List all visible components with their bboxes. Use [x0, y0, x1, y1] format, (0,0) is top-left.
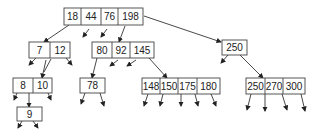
edge-arrow	[211, 94, 216, 106]
edge-arrow	[221, 55, 228, 63]
edge-arrow	[301, 94, 305, 111]
node-key: 148	[143, 81, 160, 92]
tree-node-root: 184476198	[64, 8, 143, 25]
edge-arrow	[195, 94, 198, 106]
edge-arrow	[100, 93, 104, 106]
node-key: 270	[266, 81, 283, 92]
edge-arrow	[18, 121, 22, 128]
edge-arrow	[119, 26, 125, 42]
node-key: 8	[20, 80, 26, 91]
node-key: 18	[67, 11, 79, 22]
edge-arrow	[127, 60, 136, 66]
node-key: 175	[179, 81, 196, 92]
node-key: 12	[54, 45, 66, 56]
edge-arrow	[282, 94, 287, 110]
b-tree-diagram: 1844761987128092145250810978148150175180…	[0, 0, 318, 140]
edge-arrow	[149, 58, 167, 78]
edge-arrow	[33, 121, 38, 128]
edge-arrow	[83, 29, 89, 37]
node-key: 80	[96, 45, 108, 56]
tree-node-n-78: 78	[80, 78, 105, 93]
node-key: 44	[85, 11, 97, 22]
tree-edges	[14, 16, 305, 128]
edge-arrow	[44, 25, 69, 42]
edge-arrow	[110, 60, 118, 66]
tree-node-n-80-92-145: 8092145	[92, 42, 154, 58]
node-key: 150	[161, 81, 178, 92]
node-key: 76	[104, 11, 116, 22]
node-key: 250	[247, 81, 264, 92]
edge-arrow	[144, 16, 221, 42]
tree-node-n-148-180: 148150175180	[142, 78, 220, 94]
node-key: 10	[37, 80, 49, 91]
node-key: 180	[200, 81, 217, 92]
edge-arrow	[101, 29, 107, 37]
edge-arrow	[81, 93, 85, 104]
edge-arrow	[144, 94, 148, 106]
edge-arrow	[66, 58, 72, 65]
edge-arrow	[160, 94, 163, 106]
edge-arrow	[247, 94, 251, 110]
edge-arrow	[48, 93, 51, 100]
edge-arrow	[240, 55, 263, 78]
tree-node-n-8-10: 810	[13, 78, 52, 93]
tree-node-n-250-300: 250270300	[246, 78, 305, 94]
node-key: 9	[27, 109, 33, 120]
tree-node-n-250: 250	[222, 40, 247, 55]
node-key: 7	[37, 45, 43, 56]
node-key: 92	[115, 45, 127, 56]
node-key: 145	[134, 45, 151, 56]
node-key: 250	[226, 42, 243, 53]
tree-node-n-7-12: 712	[29, 42, 70, 58]
edge-arrow	[29, 58, 36, 65]
node-key: 300	[286, 81, 303, 92]
tree-node-n-9: 9	[17, 107, 42, 121]
edge-arrow	[14, 93, 17, 100]
tree-nodes: 1844761987128092145250810978148150175180…	[13, 8, 305, 121]
node-key: 78	[87, 80, 99, 91]
edge-arrow	[92, 58, 97, 78]
node-key: 198	[122, 11, 139, 22]
